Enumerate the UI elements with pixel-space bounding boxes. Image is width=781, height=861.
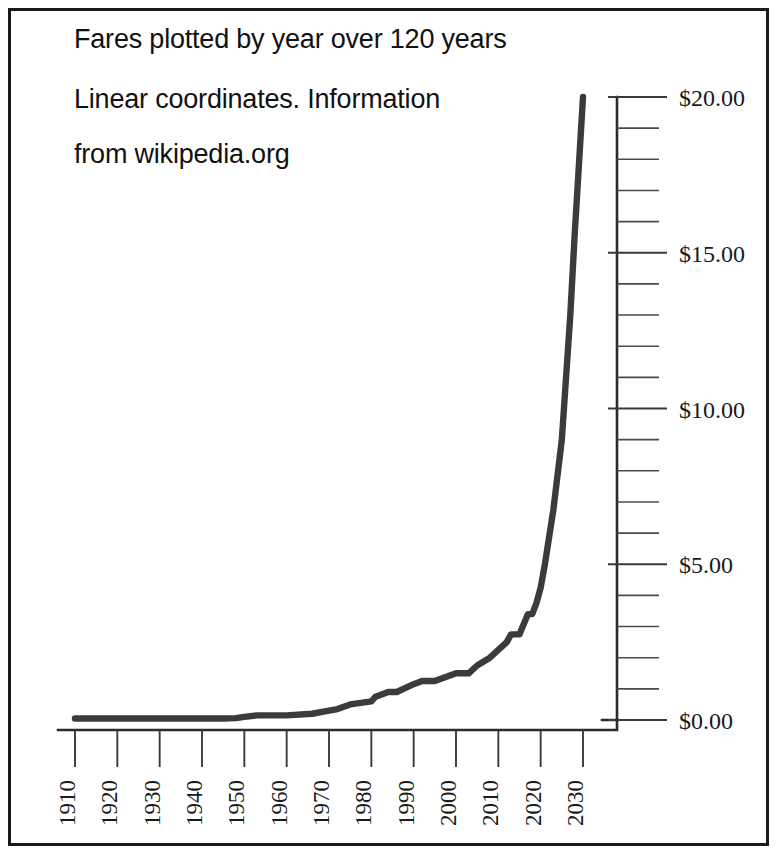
y-tick-label: $20.00	[679, 85, 745, 111]
chart-figure: Fares plotted by year over 120 years Lin…	[0, 0, 781, 861]
x-tick-label: 1930	[140, 780, 165, 826]
y-axis: $0.00$5.00$10.00$15.00$20.00	[602, 85, 745, 734]
plot-area: Fares plotted by year over 120 years Lin…	[0, 0, 781, 861]
x-tick-label: 2030	[563, 780, 588, 826]
y-tick-label: $15.00	[679, 241, 745, 267]
x-tick-label: 1980	[351, 780, 376, 826]
x-axis: 1910192019301940195019601970198019902000…	[55, 720, 617, 826]
chart-svg: Fares plotted by year over 120 years Lin…	[0, 0, 781, 861]
x-tick-label: 1920	[97, 780, 122, 826]
x-tick-label: 1950	[224, 780, 249, 826]
x-tick-label: 1910	[55, 780, 80, 826]
x-tick-label: 2020	[521, 780, 546, 826]
x-tick-label: 2010	[478, 780, 503, 826]
annotation-line-1: Fares plotted by year over 120 years	[74, 24, 507, 54]
x-tick-label: 1970	[309, 780, 334, 826]
x-tick-label: 1940	[182, 780, 207, 826]
annotation-line-3: from wikipedia.org	[74, 139, 290, 169]
x-tick-label: 2000	[436, 780, 461, 826]
annotation-line-2: Linear coordinates. Information	[74, 84, 440, 114]
x-tick-label: 1990	[394, 780, 419, 826]
data-curve-fare	[75, 97, 583, 718]
data-series-group	[75, 97, 583, 718]
y-tick-label: $0.00	[679, 708, 733, 734]
y-tick-label: $5.00	[679, 552, 733, 578]
x-tick-label: 1960	[267, 780, 292, 826]
y-tick-label: $10.00	[679, 397, 745, 423]
